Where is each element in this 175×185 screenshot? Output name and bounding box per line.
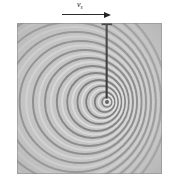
velocity-label: vs xyxy=(77,0,83,12)
ripple-pattern-svg xyxy=(17,23,162,174)
doppler-ripple-figure: vs xyxy=(0,0,175,185)
velocity-annotation: vs xyxy=(60,0,116,22)
velocity-arrow-shaft xyxy=(62,14,106,15)
velocity-arrow-head-icon xyxy=(104,12,111,18)
photo-grain xyxy=(17,23,162,174)
velocity-subscript: s xyxy=(81,4,83,10)
ripple-tank-photo xyxy=(17,23,162,174)
